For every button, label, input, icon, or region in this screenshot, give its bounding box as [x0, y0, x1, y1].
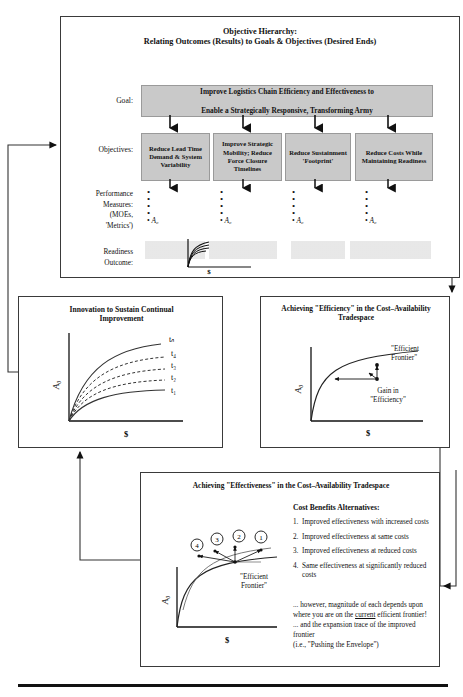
innovation-title-line2: Improvement	[27, 314, 216, 323]
note1-b: efficient frontier!	[375, 611, 426, 619]
effectiveness-frontier-label: "Efficient Frontier"	[223, 573, 285, 591]
effectiveness-x-axis-label: $	[225, 635, 230, 645]
efficiency-frontier-label: "Efficient Frontier"	[391, 345, 449, 363]
measures-column-3: • • • • • A₀	[292, 189, 332, 224]
measure-bullet: •	[220, 189, 260, 196]
note-line-3: (i.e., "Pushing the Envelope")	[293, 641, 435, 651]
connector-into-effectiveness	[444, 470, 456, 586]
list-item: 4. Same effectiveness at significantly r…	[293, 562, 433, 581]
pm-label-line1: Performance	[61, 189, 133, 200]
measure-bullet: •	[220, 196, 260, 203]
item-number: 3.	[293, 547, 302, 557]
list-item: 3. Improved effectiveness at reduced cos…	[293, 547, 433, 557]
measures-column-2: • • • • • A₀	[220, 189, 260, 224]
eff-frontier-line2: Frontier"	[223, 582, 285, 591]
measure-bullet: •	[365, 203, 405, 210]
gain-label-line2: "Efficiency"	[353, 396, 423, 405]
measure-bullet: •	[365, 189, 405, 196]
efficiency-x-axis-label: $	[366, 428, 371, 438]
measure-symbol: • A₀	[292, 217, 332, 224]
efficiency-title-line1: Achieving "Efficiency" in the Cost–Avail…	[267, 304, 445, 313]
measure-bullet: •	[147, 196, 187, 203]
efficiency-panel-title: Achieving "Efficiency" in the Cost–Avail…	[267, 304, 445, 323]
bottom-divider	[18, 684, 448, 687]
note-line-1: ... however, magnitude of each depends u…	[293, 601, 435, 620]
measure-bullet: •	[365, 196, 405, 203]
goal-box: Improve Logistics Chain Efficiency and E…	[141, 85, 433, 117]
marker-3: 3	[215, 536, 219, 544]
measures-column-1: • • • • • A₀	[147, 189, 187, 224]
ro-label-line2: Outcome:	[61, 258, 133, 269]
item-number: 1.	[293, 518, 302, 528]
cost-benefits-list: 1. Improved effectiveness with increased…	[293, 518, 433, 586]
innovation-chart: A₀ $ tₙ t₄ t₃ t₂ t₁	[43, 329, 218, 441]
frontier-label-line1: "Efficient	[391, 345, 449, 354]
objective-box-3: Reduce Sustainment 'Footprint'	[285, 133, 351, 181]
effectiveness-panel: Achieving "Effectiveness" in the Cost–Av…	[140, 472, 440, 667]
item-number: 4.	[293, 562, 302, 581]
curve-label-tn: tₙ	[169, 335, 174, 344]
innovation-title-line1: Innovation to Sustain Continual	[27, 305, 216, 314]
objective-box-4: Reduce Costs While Maintaining Readiness	[355, 133, 433, 181]
panel-title-line2: Relating Outcomes (Results) to Goals & O…	[61, 37, 459, 47]
curve-label-t2: t₂	[171, 373, 176, 382]
note-line-2: ... and the expansion trace of the impro…	[293, 621, 435, 640]
efficiency-gain-label: Gain in "Efficiency"	[353, 387, 423, 405]
measure-symbol-text: A₀	[369, 216, 376, 225]
measure-symbol-text: A₀	[296, 216, 303, 225]
measure-symbol-text: A₀	[224, 216, 231, 225]
efficiency-y-axis-label: A₀	[293, 385, 303, 395]
effectiveness-panel-title: Achieving "Effectiveness" in the Cost–Av…	[147, 481, 435, 490]
measure-bullet: •	[220, 203, 260, 210]
item-text: Improved effectiveness at reduced costs	[302, 547, 433, 557]
ro-label-line1: Readiness	[61, 247, 133, 258]
pm-label-line4: 'Metrics')	[61, 221, 133, 232]
innovation-panel-title: Innovation to Sustain Continual Improvem…	[27, 305, 216, 324]
readiness-outcome-label: Readiness Outcome:	[61, 247, 133, 268]
objective-hierarchy-panel: Objective Hierarchy: Relating Outcomes (…	[60, 16, 460, 278]
innovation-x-axis-label: $	[124, 429, 129, 439]
objective-box-1: Reduce Lead Time Demand & System Variabi…	[141, 133, 210, 181]
note1-underline: current	[355, 611, 375, 619]
marker-2: 2	[237, 533, 241, 541]
measure-symbol: • A₀	[147, 217, 187, 224]
innovation-panel: Innovation to Sustain Continual Improvem…	[18, 296, 223, 448]
performance-measures-label: Performance Measures: (MOEs, 'Metrics')	[61, 189, 133, 231]
curve-label-t4: t₄	[171, 349, 176, 358]
measure-bullet: •	[147, 203, 187, 210]
efficiency-panel: Achieving "Efficiency" in the Cost–Avail…	[260, 296, 450, 448]
measure-symbol: • A₀	[220, 217, 260, 224]
measure-bullet: •	[292, 196, 332, 203]
pm-label-line3: (MOEs,	[61, 210, 133, 221]
curve-label-t3: t₃	[171, 361, 176, 370]
connector-effectiveness-to-innovation	[80, 452, 140, 560]
readiness-x-axis-label: $	[207, 268, 211, 276]
measure-bullet: •	[292, 203, 332, 210]
list-item: 2. Improved effectiveness at same costs	[293, 533, 433, 543]
marker-4: 4	[195, 542, 199, 550]
goal-text-line2: Enable a Strategically Responsive, Trans…	[200, 106, 374, 115]
pm-label-line2: Measures:	[61, 200, 133, 211]
measure-bullet: •	[147, 189, 187, 196]
objective-box-3-text: Reduce Sustainment 'Footprint'	[286, 149, 350, 166]
cost-benefits-notes: ... however, magnitude of each depends u…	[293, 601, 435, 652]
item-text: Improved effectiveness with increased co…	[302, 518, 433, 528]
goal-text-line1: Improve Logistics Chain Efficiency and E…	[200, 87, 374, 96]
measure-symbol-text: A₀	[151, 216, 158, 225]
frontier-label-line2: Frontier"	[391, 354, 449, 363]
goal-to-objective-arrows	[61, 115, 461, 135]
item-number: 2.	[293, 533, 302, 543]
item-text: Same effectiveness at significantly redu…	[302, 562, 433, 581]
panel-title: Objective Hierarchy: Relating Outcomes (…	[61, 27, 459, 48]
readiness-outcome-chart: $	[179, 239, 259, 275]
item-text: Improved effectiveness at same costs	[302, 533, 433, 543]
effectiveness-y-axis-label: A₀	[160, 596, 170, 606]
gain-label-line1: Gain in	[353, 387, 423, 396]
eff-frontier-line1: "Efficient	[223, 573, 285, 582]
objective-box-2: Improve Strategic Mobility; Reduce Force…	[213, 133, 282, 181]
panel-title-line1: Objective Hierarchy:	[61, 27, 459, 37]
cost-benefits-heading: Cost Benefits Alternatives:	[293, 503, 379, 512]
objectives-row-label: Objectives:	[61, 145, 133, 154]
measures-column-4: • • • • • A₀	[365, 189, 405, 224]
connector-efficiency-to-effectiveness	[440, 448, 444, 586]
